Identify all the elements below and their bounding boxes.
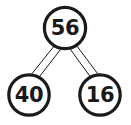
bond-edges bbox=[31, 46, 100, 81]
node-left-child: 40 bbox=[9, 75, 49, 115]
node-root-label: 56 bbox=[51, 16, 80, 40]
number-bond-canvas: 56 40 16 bbox=[0, 0, 131, 125]
node-right-child: 16 bbox=[80, 75, 120, 115]
node-left-label: 40 bbox=[15, 83, 44, 107]
node-right-label: 16 bbox=[86, 83, 115, 107]
node-root: 56 bbox=[44, 7, 85, 48]
number-bond-diagram: 56 40 16 bbox=[0, 0, 131, 125]
